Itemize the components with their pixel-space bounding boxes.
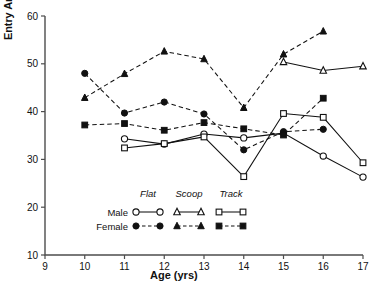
x-tick-label: 14	[238, 261, 250, 272]
y-axis-tick-labels: 102030405060	[27, 11, 39, 261]
series-marker	[201, 120, 207, 126]
series-line	[85, 31, 324, 107]
legend-row-label: Female	[96, 221, 128, 232]
x-tick-label: 15	[278, 261, 290, 272]
series-marker	[281, 111, 287, 117]
series-marker	[121, 136, 127, 142]
legend-sample-marker	[157, 223, 163, 229]
series-marker	[161, 141, 167, 147]
series-marker	[281, 132, 287, 138]
series-marker	[320, 126, 326, 132]
series-marker	[82, 70, 88, 76]
legend-sample-marker	[240, 209, 246, 215]
y-tick-label: 60	[27, 11, 39, 22]
chart-figure: Entry Angle (degree) 102030405060 910111…	[0, 0, 377, 292]
legend-column-header: Track	[219, 188, 243, 199]
series-marker	[122, 121, 128, 127]
series-marker	[241, 174, 247, 180]
y-axis-label: Entry Angle (degree)	[2, 0, 14, 40]
legend-column-header: Scoop	[176, 188, 203, 199]
x-tick-label: 16	[318, 261, 330, 272]
series-marker	[241, 147, 247, 153]
x-tick-label: 9	[42, 261, 48, 272]
series-marker	[161, 99, 167, 105]
series-marker	[320, 153, 326, 159]
x-axis-label: Age (yrs)	[150, 269, 198, 281]
series-marker	[241, 126, 247, 132]
y-tick-label: 30	[27, 154, 39, 165]
legend-sample-marker	[198, 222, 205, 228]
series-marker	[81, 94, 88, 100]
y-tick-label: 20	[27, 202, 39, 213]
x-tick-label: 11	[119, 261, 130, 272]
series-marker	[360, 62, 367, 68]
legend-column-header: Flat	[140, 188, 156, 199]
series-marker	[161, 48, 168, 54]
series-marker	[320, 28, 327, 34]
series-marker	[241, 135, 247, 141]
y-tick-label: 50	[27, 58, 39, 69]
series-marker	[320, 95, 326, 101]
x-tick-label: 10	[79, 261, 91, 272]
legend-sample-marker	[157, 209, 163, 215]
legend-sample-marker	[216, 209, 222, 215]
y-tick-label: 40	[27, 106, 39, 117]
x-tick-label: 17	[357, 261, 369, 272]
series-marker	[121, 110, 127, 116]
series-marker	[201, 111, 207, 117]
series-marker	[280, 58, 287, 64]
series-marker	[320, 114, 326, 120]
series-marker	[360, 174, 366, 180]
legend-sample-marker	[216, 223, 222, 229]
chart-legend: FlatScoopTrackMaleFemale	[96, 188, 246, 232]
legend-sample-marker	[240, 223, 246, 229]
x-axis-tick-labels: 91011121314151617	[42, 261, 369, 272]
x-tick-label: 13	[198, 261, 210, 272]
series-marker	[360, 160, 366, 166]
legend-sample-marker	[133, 223, 139, 229]
series-line	[125, 114, 364, 177]
series-marker	[201, 134, 207, 140]
y-tick-label: 10	[27, 250, 39, 261]
series-marker	[121, 70, 128, 76]
series-marker	[161, 127, 167, 133]
series-marker	[122, 145, 128, 151]
legend-sample-marker	[133, 209, 139, 215]
series-marker	[82, 122, 88, 128]
legend-row-label: Male	[107, 207, 128, 218]
chart-plot-area: 102030405060 91011121314151617 FlatScoop…	[0, 0, 377, 292]
series-marker	[280, 50, 287, 56]
y-axis-label-container: Entry Angle (degree)	[4, 0, 20, 260]
